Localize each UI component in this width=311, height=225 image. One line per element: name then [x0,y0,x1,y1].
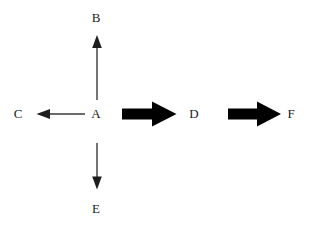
node-label-e: E [85,202,107,215]
node-label-c: C [7,107,29,120]
arrow-a-to-b-head [92,35,102,48]
arrow-a-to-c-head [37,109,51,119]
node-label-a: A [85,107,107,120]
arrow-a-to-e [92,143,102,190]
arrow-a-to-c [37,109,86,119]
arrow-a-to-e-head [92,177,102,190]
node-label-f: F [280,107,302,120]
diagram-arrows-layer [0,0,311,225]
diagram-canvas: B C A D F E [0,0,311,225]
node-label-d: D [183,107,205,120]
arrow-d-to-f-body [228,102,281,127]
arrow-a-to-d [122,102,177,127]
node-label-b: B [85,11,107,24]
arrow-a-to-d-body [122,102,177,127]
arrow-d-to-f [228,102,281,127]
arrow-a-to-b [92,35,102,100]
